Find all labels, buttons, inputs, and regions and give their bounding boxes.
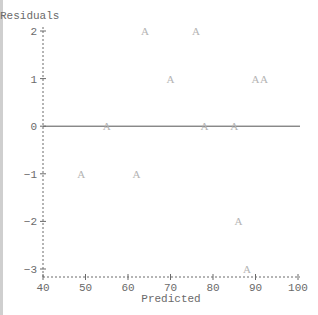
x-tick-label: 80 (206, 282, 219, 294)
x-tick-label: 70 (164, 282, 177, 294)
data-point-marker: A (260, 73, 268, 85)
y-tick-label: −3 (24, 264, 37, 276)
y-tick-label: 0 (30, 121, 37, 133)
x-tick-label: 60 (121, 282, 134, 294)
data-point-marker: A (133, 168, 141, 180)
data-point-marker: A (235, 215, 243, 227)
residual-scatter-plot: Residuals Predicted 210−1−2−340506070809… (0, 0, 318, 315)
x-tick-label: 100 (288, 282, 308, 294)
data-point-marker: A (243, 263, 251, 275)
data-point-marker: A (103, 120, 111, 132)
y-axis-title: Residuals (0, 10, 59, 22)
x-axis-title: Predicted (141, 293, 200, 305)
x-tick-label: 40 (36, 282, 49, 294)
data-points: AAAAAAAAAAAA (77, 25, 268, 275)
data-point-marker: A (230, 120, 238, 132)
y-tick-label: 2 (30, 26, 37, 38)
x-tick-label: 50 (79, 282, 92, 294)
x-tick-label: 90 (249, 282, 262, 294)
data-point-marker: A (252, 73, 260, 85)
y-tick-label: 1 (30, 74, 37, 86)
data-point-marker: A (77, 168, 85, 180)
y-tick-label: −1 (24, 169, 38, 181)
data-point-marker: A (167, 73, 175, 85)
data-point-marker: A (192, 25, 200, 37)
axes: 210−1−2−3405060708090100 (24, 26, 308, 294)
y-tick-label: −2 (24, 216, 37, 228)
data-point-marker: A (141, 25, 149, 37)
data-point-marker: A (201, 120, 209, 132)
